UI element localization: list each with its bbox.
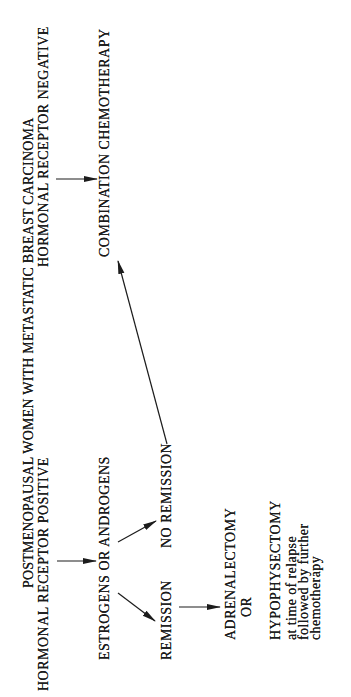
node-adrenalectomy: ADRENALECTOMY [224,508,238,640]
node-estrogens-or-androgens: ESTROGENS OR ANDROGENS [98,456,112,660]
node-hormonal-receptor-positive: HORMONAL RECEPTOR POSITIVE [37,457,51,691]
arrow-estrogens-to-no-remission [118,521,156,542]
hypophysectomy-note-line3: chemotherapy [309,556,323,640]
node-hypophysectomy: HYPOPHYSECTOMY [269,500,283,640]
node-hormonal-receptor-negative: HORMONAL RECEPTOR NEGATIVE [37,26,51,267]
arrow-no-remission-to-chemotherapy [118,261,167,444]
node-remission: REMISSION [160,580,174,660]
node-or-connector: OR [240,597,254,617]
node-no-remission: NO REMISSION [160,443,174,548]
rotated-sheet: POSTMENOPAUSAL WOMEN WITH METASTATIC BRE… [0,0,351,697]
node-combination-chemotherapy: COMBINATION CHEMOTHERAPY [98,28,112,257]
diagram-title: POSTMENOPAUSAL WOMEN WITH METASTATIC BRE… [22,117,36,588]
arrow-estrogens-to-remission [118,593,155,621]
scanned-flowchart-page: POSTMENOPAUSAL WOMEN WITH METASTATIC BRE… [0,0,351,697]
